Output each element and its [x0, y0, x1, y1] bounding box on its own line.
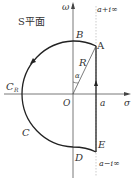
point-A-label: A — [96, 40, 105, 51]
point-E-label: E — [97, 139, 106, 150]
a-label: a — [100, 98, 105, 108]
angle-arc — [73, 82, 78, 83]
point-D-label: D — [74, 152, 83, 163]
point-C-label: C — [22, 127, 30, 138]
point-CR-label: C — [6, 81, 14, 92]
point-B-label: B — [75, 29, 83, 40]
origin-label: O — [63, 98, 71, 108]
contour-diagram: S平面 ω σ O a+i∞ a−i∞ B A R α C R a C E D — [0, 0, 134, 182]
angle-label: α — [75, 72, 80, 80]
sigma-label: σ — [124, 98, 131, 108]
omega-arrow-icon — [71, 2, 75, 9]
up-arrow-icon — [94, 80, 98, 86]
radius-label: R — [78, 57, 87, 68]
sigma-arrow-icon — [124, 92, 131, 96]
top-line-label: a+i∞ — [97, 5, 118, 14]
omega-label: ω — [62, 2, 70, 12]
plane-label: S平面 — [18, 16, 45, 27]
bottom-line-label: a−i∞ — [99, 159, 120, 168]
radius-line — [73, 46, 96, 94]
point-CR-subscript: R — [13, 86, 19, 93]
